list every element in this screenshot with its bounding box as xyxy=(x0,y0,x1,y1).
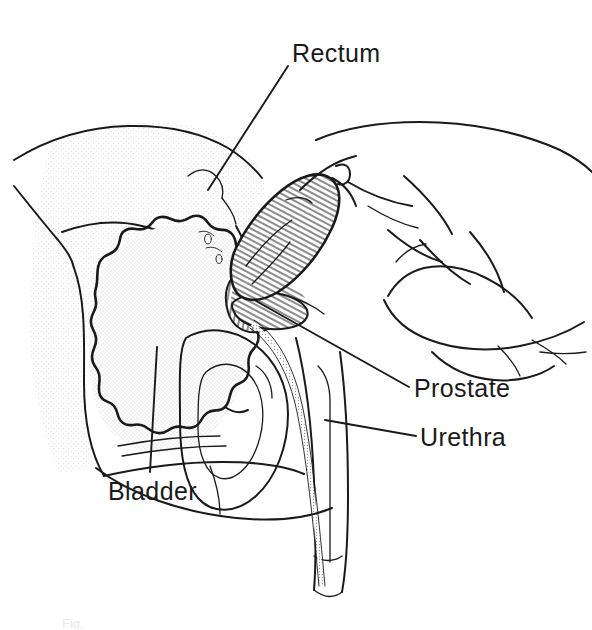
hand-hypothenar xyxy=(388,266,532,318)
middle-finger-fold xyxy=(388,230,442,262)
glans-tip xyxy=(314,590,342,596)
figure-caption: Fig. xyxy=(62,616,84,630)
label-rectum: Rectum xyxy=(292,39,381,67)
palm-crease xyxy=(368,206,418,228)
figure-container: Rectum Prostate Urethra Bladder Fig. xyxy=(0,0,592,630)
examining-hand xyxy=(300,122,592,380)
finger-crease-a xyxy=(498,346,520,376)
ring-finger-fold xyxy=(420,240,470,284)
urethra-channel xyxy=(252,324,322,586)
urethra-wall-outer xyxy=(254,320,325,586)
anatomical-illustration: Rectum Prostate Urethra Bladder Fig. xyxy=(0,0,592,630)
finger-crease-b xyxy=(532,340,566,364)
label-urethra: Urethra xyxy=(420,423,506,451)
epididymis xyxy=(256,366,272,398)
little-finger-fold xyxy=(470,232,504,292)
hand-dorsum-top xyxy=(316,122,592,172)
label-prostate: Prostate xyxy=(414,374,510,402)
finger-crease-c xyxy=(540,352,586,354)
leader-urethra xyxy=(325,420,416,436)
hand-lower-contour xyxy=(384,300,584,349)
label-bladder: Bladder xyxy=(108,477,197,505)
hand-palm-edge xyxy=(348,182,412,206)
penis xyxy=(250,320,348,596)
